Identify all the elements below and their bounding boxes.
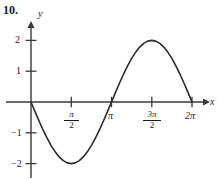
y-tick-label-2: 2 [15,35,20,45]
fraction-numerator: π [64,110,79,119]
fraction-numerator: 3π [143,110,161,119]
x-axis-label: x [210,97,214,107]
coordinate-plot [0,0,218,180]
graph-figure: 10. y x 2 1 [0,0,218,180]
y-tick-label-neg1: −1 [11,128,22,138]
y-tick-label-1: 1 [16,66,21,76]
x-tick-label-2pi: 2π [185,111,195,121]
y-tick-label-neg2: −2 [11,159,22,169]
x-tick-label-pi-over-2: π 2 [64,110,79,131]
y-axis-label: y [38,9,42,19]
fraction-denominator: 2 [143,121,161,130]
y-axis [27,21,34,178]
fraction-denominator: 2 [64,121,79,130]
x-tick-label-3pi-over-2: 3π 2 [143,110,161,131]
x-axis [6,98,210,105]
x-tick-label-pi: π [108,111,113,121]
